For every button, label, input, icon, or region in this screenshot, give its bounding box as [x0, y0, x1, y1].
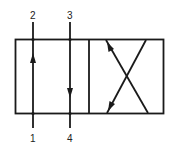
port-label-3: 3 — [67, 10, 73, 21]
port-label-4: 4 — [67, 133, 73, 144]
junction-dot — [68, 112, 71, 115]
arrow-down-icon — [67, 88, 73, 98]
arrow-up-icon — [30, 53, 36, 63]
arrow-down-left-icon — [108, 101, 115, 111]
junction-dot — [31, 112, 34, 115]
valve-symbol-diagram: 2 3 1 4 — [0, 0, 171, 149]
junction-dot — [68, 38, 71, 41]
junction-dot — [31, 38, 34, 41]
port-label-2: 2 — [30, 10, 36, 21]
port-label-1: 1 — [30, 133, 36, 144]
